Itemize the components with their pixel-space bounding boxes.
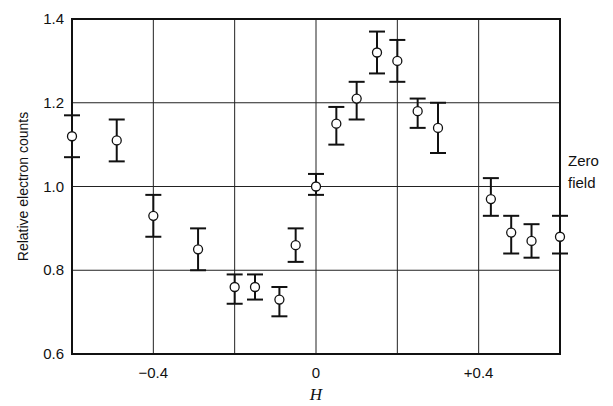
data-point: [434, 123, 443, 132]
x-tick-label: +0.4: [464, 364, 494, 381]
data-point: [556, 232, 565, 241]
data-point: [352, 94, 361, 103]
data-point: [194, 245, 203, 254]
data-point: [393, 56, 402, 65]
data-point: [413, 107, 422, 116]
data-point: [332, 119, 341, 128]
y-tick-label: 0.6: [43, 345, 64, 362]
data-point: [527, 236, 536, 245]
x-axis-label: H: [309, 385, 324, 404]
data-point: [373, 48, 382, 57]
y-tick-label: 1.2: [43, 94, 64, 111]
data-point: [291, 241, 300, 250]
data-point: [149, 211, 158, 220]
x-tick-label: 0: [312, 364, 320, 381]
zero-field-annotation: field: [568, 174, 596, 191]
x-tick-label: −0.4: [139, 364, 169, 381]
chart-figure: 0.60.81.01.21.4−0.40+0.4HRelative electr…: [0, 0, 613, 406]
data-point: [251, 283, 260, 292]
y-tick-label: 1.4: [43, 10, 64, 27]
y-tick-label: 1.0: [43, 178, 64, 195]
data-point: [112, 136, 121, 145]
y-axis-label: Relative electron counts: [15, 112, 31, 261]
data-point: [68, 132, 77, 141]
data-point: [507, 228, 516, 237]
data-point: [275, 295, 284, 304]
data-point: [486, 195, 495, 204]
zero-field-annotation: Zero: [568, 152, 599, 169]
error-bar-plot: 0.60.81.01.21.4−0.40+0.4HRelative electr…: [0, 0, 613, 406]
data-point: [230, 283, 239, 292]
data-point: [312, 182, 321, 191]
y-tick-label: 0.8: [43, 261, 64, 278]
